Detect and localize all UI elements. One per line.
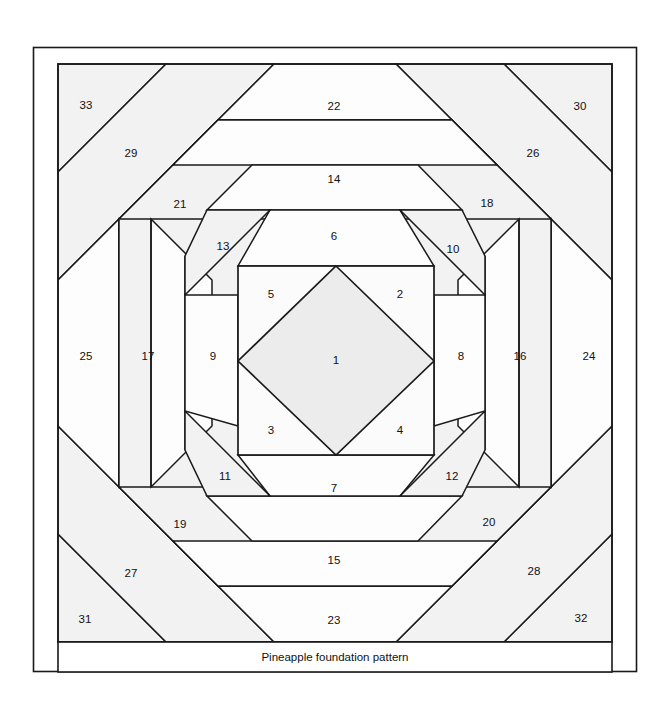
piece-label-3: 3 [268, 424, 274, 436]
piece-label-5: 5 [268, 288, 274, 300]
pattern-block: 1 2 3 4 5 6 7 8 9 10 11 12 13 14 15 16 1… [58, 64, 612, 642]
piece-label-8: 8 [458, 350, 464, 362]
piece-label-16: 16 [514, 350, 527, 362]
piece-label-17: 17 [142, 350, 155, 362]
pineapple-foundation-pattern-figure: 1 2 3 4 5 6 7 8 9 10 11 12 13 14 15 16 1… [0, 0, 665, 708]
piece-label-9: 9 [210, 350, 216, 362]
piece-label-18: 18 [481, 197, 494, 209]
piece-label-19: 19 [174, 518, 187, 530]
piece-label-27: 27 [125, 567, 138, 579]
piece-label-28: 28 [528, 565, 541, 577]
piece-label-14: 14 [328, 173, 341, 185]
figure-caption: Pineapple foundation pattern [261, 651, 408, 663]
piece-label-25: 25 [80, 350, 93, 362]
piece-label-12: 12 [446, 470, 459, 482]
piece-label-26: 26 [527, 147, 540, 159]
piece-label-22: 22 [328, 100, 341, 112]
piece-label-2: 2 [397, 288, 403, 300]
piece-label-31: 31 [79, 613, 92, 625]
band-top-outer [173, 120, 497, 165]
piece-label-7: 7 [331, 482, 337, 494]
piece-label-6: 6 [331, 230, 337, 242]
piece-label-4: 4 [397, 424, 404, 436]
piece-label-15: 15 [328, 554, 341, 566]
piece-label-23: 23 [328, 614, 341, 626]
piece-label-10: 10 [447, 243, 460, 255]
piece-label-13: 13 [217, 240, 230, 252]
piece-label-11: 11 [219, 470, 231, 482]
pattern-svg: 1 2 3 4 5 6 7 8 9 10 11 12 13 14 15 16 1… [0, 0, 665, 708]
piece-label-24: 24 [583, 350, 596, 362]
piece-label-1: 1 [333, 354, 339, 366]
piece-label-30: 30 [574, 100, 587, 112]
piece-15-shape [207, 496, 462, 541]
piece-label-20: 20 [483, 516, 496, 528]
piece-label-29: 29 [125, 147, 138, 159]
piece-label-33: 33 [80, 99, 93, 111]
piece-14-shape [207, 165, 462, 210]
piece-label-32: 32 [575, 612, 588, 624]
piece-label-21: 21 [174, 198, 187, 210]
